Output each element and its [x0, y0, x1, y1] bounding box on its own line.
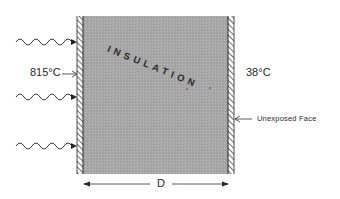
heat-arrow-bottom	[16, 143, 77, 149]
cold-side-temperature: 38°C	[246, 66, 271, 78]
unexposed-wall	[228, 16, 234, 174]
thickness-label: D	[157, 177, 165, 189]
unexposed-face-leader	[235, 116, 252, 122]
hot-temperature-leader	[62, 71, 77, 77]
insulation-layer	[83, 16, 228, 174]
heat-arrow-middle	[16, 94, 77, 100]
diagram-canvas	[0, 0, 340, 199]
thickness-dimension	[83, 182, 229, 187]
heat-arrow-top	[16, 39, 77, 45]
unexposed-face-label: Unexposed Face	[257, 114, 317, 123]
hot-side-temperature: 815°C	[30, 66, 61, 78]
exposed-wall	[77, 16, 83, 174]
